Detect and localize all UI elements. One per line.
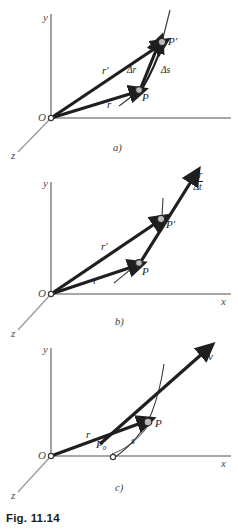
fraction-denominator: Δt <box>192 183 203 193</box>
vector-r-prime-label: r′ <box>102 65 109 76</box>
vector-delta-r-label: Δr <box>127 66 136 76</box>
point-P-label: P <box>142 92 149 103</box>
panel-c-sublabel: c) <box>115 482 123 493</box>
point-P-prime-label: P′ <box>168 36 177 47</box>
origin-marker <box>48 115 53 120</box>
y-axis-label: y <box>43 178 48 189</box>
x-axis-label: x <box>221 296 226 307</box>
y-axis-label: y <box>43 12 48 23</box>
point-P-prime-marker <box>157 215 164 222</box>
vector-r-prime <box>51 223 156 294</box>
panel-b: y x z O P P′ r r′ Δr Δt b) <box>0 170 238 340</box>
panel-a-sublabel: a) <box>113 142 122 153</box>
point-P-zero-label: P₀ <box>96 439 107 450</box>
figure-11-14: y z O P P′ r r′ Δr Δs a) <box>0 0 238 532</box>
panel-a: y z O P P′ r r′ Δr Δs a) <box>0 0 238 170</box>
arc-length-label: s <box>131 437 135 447</box>
point-P-prime-label: P′ <box>166 219 175 230</box>
vector-v <box>100 353 203 444</box>
point-P-zero-marker <box>110 454 115 459</box>
vector-v-label: v <box>208 351 213 362</box>
panel-c: y x z O P P₀ r v s c) <box>0 340 238 500</box>
origin-marker <box>48 291 53 296</box>
velocity-fraction-label: Δr Δt <box>192 171 203 193</box>
z-axis-label: z <box>11 328 15 339</box>
z-axis <box>18 456 51 492</box>
x-axis-label: x <box>221 458 226 469</box>
point-P-label: P <box>155 418 162 429</box>
y-axis-label: y <box>43 344 48 355</box>
vector-r-label: r <box>93 275 97 286</box>
point-P-prime-marker <box>158 38 165 45</box>
fraction-numerator: Δr <box>192 171 203 181</box>
vector-r-prime-label: r′ <box>101 241 108 252</box>
vector-delta-s-label: Δs <box>161 66 170 76</box>
z-axis <box>18 118 51 152</box>
z-axis-label: z <box>11 490 15 501</box>
vector-r <box>51 267 132 294</box>
panel-b-drawing <box>0 170 238 340</box>
vector-r-label: r <box>86 429 90 440</box>
origin-marker <box>48 453 53 458</box>
trajectory-tangent <box>162 198 163 217</box>
z-axis <box>18 294 51 330</box>
figure-caption: Fig. 11.14 <box>6 512 60 524</box>
z-axis-label: z <box>11 150 15 161</box>
vector-r-label: r <box>107 99 111 110</box>
point-P-label: P <box>142 266 149 277</box>
panel-c-drawing <box>0 340 238 500</box>
vector-r <box>51 93 133 118</box>
origin-label: O <box>38 112 46 123</box>
vector-r-prime <box>51 47 157 118</box>
origin-label: O <box>38 450 46 461</box>
point-P-marker <box>144 418 152 426</box>
origin-label: O <box>38 288 46 299</box>
panel-b-sublabel: b) <box>115 316 124 327</box>
